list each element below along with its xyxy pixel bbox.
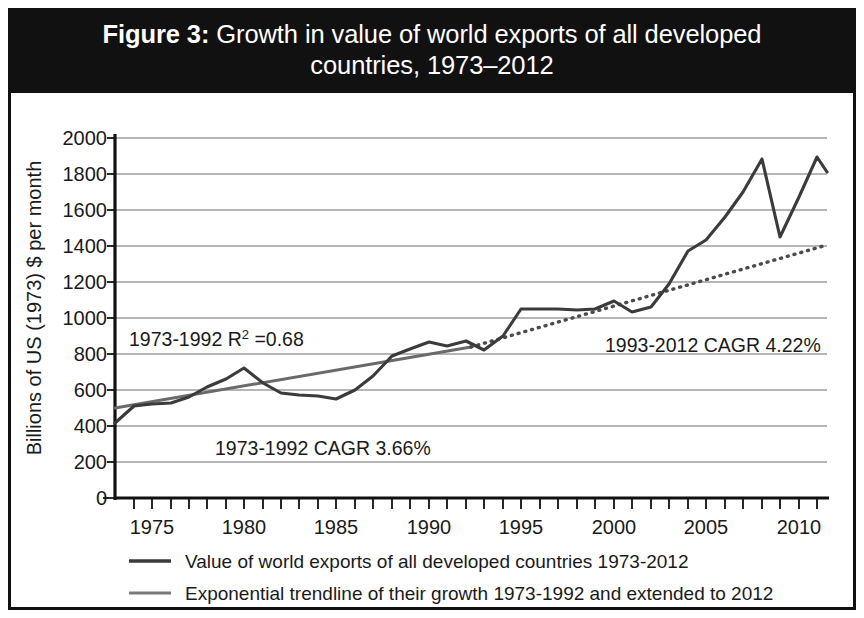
- ytick-label-200: 200: [74, 451, 107, 473]
- series-world-exports-line: [115, 157, 827, 423]
- legend-label-world-exports: Value of world exports of all developed …: [185, 551, 688, 572]
- trendline-dotted-extension: [471, 245, 827, 347]
- x-tick-marks: [134, 498, 817, 509]
- x-axis: 1975 1980 1985 1990 1995 2000 2005 2010: [115, 498, 829, 538]
- figure-title-band: Figure 3: Growth in value of world expor…: [11, 11, 853, 93]
- xtick-label-2005: 2005: [684, 516, 729, 538]
- annotation-r-squared: 1973-1992 R2 =0.68: [129, 327, 304, 350]
- trendline-solid-segment: [115, 347, 471, 408]
- xtick-label-1975: 1975: [130, 516, 175, 538]
- ytick-label-800: 800: [74, 343, 107, 365]
- line-chart: Billions of US (1973) $ per month: [11, 93, 853, 610]
- gridlines: [115, 138, 827, 462]
- page-title: Figure 3: Growth in value of world expor…: [103, 19, 762, 81]
- xtick-label-1990: 1990: [407, 516, 452, 538]
- ytick-label-1000: 1000: [63, 307, 108, 329]
- ytick-label-1400: 1400: [63, 235, 108, 257]
- ytick-label-1200: 1200: [63, 271, 108, 293]
- annotation-cagr-early: 1973-1992 CAGR 3.66%: [215, 437, 431, 459]
- figure-frame: Figure 3: Growth in value of world expor…: [8, 8, 856, 610]
- y-axis: 2000 1800 1600 1400 1200 1000 800 600 40…: [63, 127, 116, 509]
- y-axis-title: Billions of US (1973) $ per month: [23, 161, 45, 456]
- chart-legend: Value of world exports of all developed …: [129, 551, 773, 604]
- xtick-label-2000: 2000: [592, 516, 637, 538]
- ytick-label-400: 400: [74, 415, 107, 437]
- annotation-cagr-late: 1993-2012 CAGR 4.22%: [605, 334, 821, 356]
- figure-root: Figure 3: Growth in value of world expor…: [0, 0, 864, 618]
- ytick-label-600: 600: [74, 379, 107, 401]
- legend-label-trendline: Exponential trendline of their growth 19…: [185, 583, 773, 604]
- chart-plot-area: Billions of US (1973) $ per month: [11, 93, 853, 607]
- xtick-label-1980: 1980: [222, 516, 267, 538]
- figure-title-line2: countries, 1973–2012: [310, 51, 553, 79]
- ytick-label-2000: 2000: [63, 127, 108, 149]
- ytick-label-1600: 1600: [63, 199, 108, 221]
- xtick-label-2010: 2010: [777, 516, 822, 538]
- figure-number-label: Figure 3:: [103, 20, 210, 48]
- xtick-label-1995: 1995: [499, 516, 544, 538]
- xtick-label-1985: 1985: [314, 516, 359, 538]
- figure-title-line1: Growth in value of world exports of all …: [216, 20, 761, 48]
- ytick-label-1800: 1800: [63, 163, 108, 185]
